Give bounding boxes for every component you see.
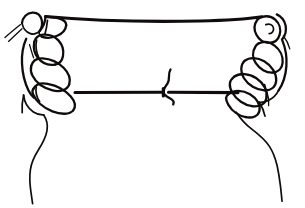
illustration-canvas: Two hands holding a taut string Simple b… <box>0 0 305 208</box>
line-drawing-svg <box>0 0 305 208</box>
